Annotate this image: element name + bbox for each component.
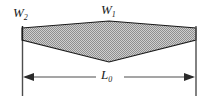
- label-end-width-subscript: 2: [24, 13, 28, 22]
- label-center-width-subscript: 1: [112, 10, 116, 19]
- label-length: L0: [101, 68, 112, 81]
- specimen-shape: [22, 21, 196, 62]
- right-arrowhead-icon: [184, 73, 195, 81]
- label-end-width: W2: [13, 6, 28, 19]
- label-length-subscript: 0: [108, 75, 112, 84]
- figure-container: W2 W1 L0: [0, 0, 215, 106]
- left-arrowhead-icon: [23, 73, 34, 81]
- label-center-width: W1: [101, 3, 116, 16]
- label-center-width-symbol: W: [101, 2, 112, 17]
- label-end-width-symbol: W: [13, 5, 24, 20]
